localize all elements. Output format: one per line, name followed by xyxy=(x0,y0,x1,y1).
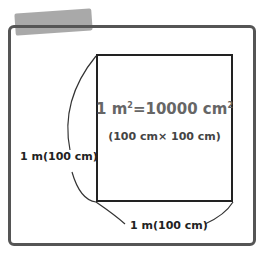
bottom-dimension-label: 1 m(100 cm) xyxy=(130,219,208,232)
dimension-arcs xyxy=(0,0,264,254)
sub-equation: (100 cm× 100 cm) xyxy=(96,130,233,143)
equation-lhs: 1 m xyxy=(96,100,127,118)
equation-rhs: =10000 cm xyxy=(133,100,228,118)
left-dimension-label: 1 m(100 cm) xyxy=(20,150,98,163)
equation-rhs-exponent: 2 xyxy=(227,101,233,110)
area-equation: 1 m2=10000 cm2 xyxy=(96,100,233,118)
